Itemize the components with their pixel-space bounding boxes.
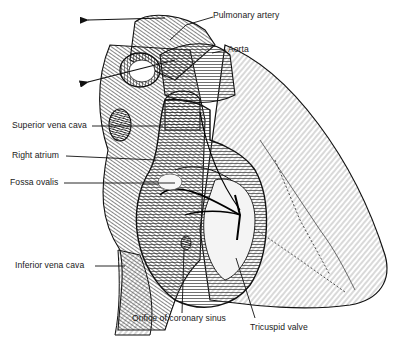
- label-orifice-coronary-sinus: Orifice of coronary sinus: [132, 313, 226, 323]
- label-superior-vena-cava: Superior vena cava: [12, 120, 87, 130]
- label-aorta: Aorta: [228, 44, 249, 54]
- heart-illustration: [0, 0, 395, 345]
- label-tricuspid-valve: Tricuspid valve: [250, 322, 308, 332]
- label-fossa-ovalis: Fossa ovalis: [10, 177, 58, 187]
- label-pulmonary-artery: Pulmonary artery: [213, 10, 279, 20]
- label-inferior-vena-cava: Inferior vena cava: [15, 260, 84, 270]
- label-right-atrium: Right atrium: [12, 150, 59, 160]
